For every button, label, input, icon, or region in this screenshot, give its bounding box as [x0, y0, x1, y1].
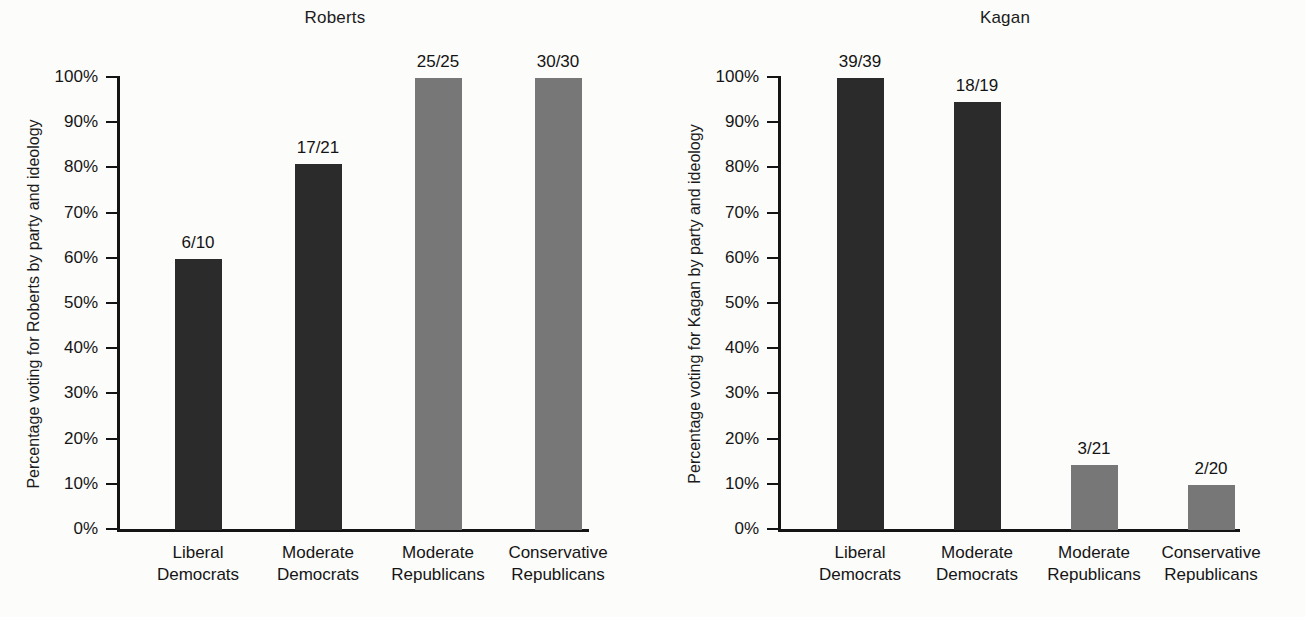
y-tick-label-roberts-10: 0% [73, 519, 98, 539]
plot-area-kagan: 100%90%80%70%60%50%40%30%20%10%0% 39/39L… [778, 78, 1240, 530]
y-tick-label-roberts-5: 50% [64, 293, 98, 313]
y-tick-roberts-8: 20% [106, 438, 117, 440]
y-tick-kagan-3: 70% [767, 212, 778, 214]
x-category-label-roberts-2: ModerateRepublicans [391, 542, 485, 587]
y-tick-kagan-9: 10% [767, 483, 778, 485]
y-tick-kagan-6: 40% [767, 347, 778, 349]
x-category-line1-kagan-1: Moderate [941, 543, 1013, 562]
bar-value-label-roberts-1: 17/21 [297, 138, 340, 158]
bar-value-label-kagan-0: 39/39 [839, 52, 882, 72]
y-tick-roberts-4: 60% [106, 257, 117, 259]
x-category-label-kagan-2: ModerateRepublicans [1047, 542, 1141, 587]
y-tick-label-kagan-8: 20% [725, 429, 759, 449]
x-category-label-roberts-3: ConservativeRepublicans [508, 542, 607, 587]
y-tick-kagan-1: 90% [767, 121, 778, 123]
bar-roberts-3[interactable]: 30/30ConservativeRepublicans [535, 78, 582, 530]
bar-kagan-3[interactable]: 2/20ConservativeRepublicans [1188, 485, 1235, 530]
figure-root: Roberts Percentage voting for Roberts by… [0, 0, 1305, 617]
x-category-line2-roberts-1: Democrats [277, 564, 359, 586]
y-tick-roberts-7: 30% [106, 392, 117, 394]
y-tick-label-roberts-7: 30% [64, 383, 98, 403]
y-tick-kagan-7: 30% [767, 392, 778, 394]
y-axis-title-kagan: Percentage voting for Kagan by party and… [683, 78, 707, 530]
chart-title-kagan: Kagan [653, 8, 1305, 28]
y-tick-kagan-2: 80% [767, 166, 778, 168]
chart-panel-roberts: Roberts Percentage voting for Roberts by… [0, 0, 652, 617]
x-category-line1-kagan-0: Liberal [834, 543, 885, 562]
x-category-label-kagan-3: ConservativeRepublicans [1161, 542, 1260, 587]
y-axis-title-roberts: Percentage voting for Roberts by party a… [22, 78, 46, 530]
x-category-line2-roberts-0: Democrats [157, 564, 239, 586]
plot-area-roberts: 100%90%80%70%60%50%40%30%20%10%0% 6/10Li… [117, 78, 589, 530]
y-tick-label-kagan-5: 50% [725, 293, 759, 313]
bar-roberts-0[interactable]: 6/10LiberalDemocrats [175, 259, 222, 530]
x-category-line2-roberts-3: Republicans [508, 564, 607, 586]
x-category-line2-roberts-2: Republicans [391, 564, 485, 586]
bar-value-label-kagan-3: 2/20 [1194, 459, 1227, 479]
bar-value-label-roberts-3: 30/30 [537, 52, 580, 72]
x-category-label-roberts-1: ModerateDemocrats [277, 542, 359, 587]
y-tick-kagan-10: 0% [767, 528, 778, 530]
y-tick-kagan-8: 20% [767, 438, 778, 440]
y-tick-roberts-9: 10% [106, 483, 117, 485]
chart-panel-kagan: Kagan Percentage voting for Kagan by par… [653, 0, 1305, 617]
x-category-label-kagan-0: LiberalDemocrats [819, 542, 901, 587]
bar-value-label-roberts-0: 6/10 [181, 233, 214, 253]
bar-roberts-2[interactable]: 25/25ModerateRepublicans [415, 78, 462, 530]
x-category-line2-kagan-2: Republicans [1047, 564, 1141, 586]
y-tick-kagan-0: 100% [767, 76, 778, 78]
y-tick-label-kagan-2: 80% [725, 157, 759, 177]
y-tick-label-roberts-3: 70% [64, 203, 98, 223]
y-tick-label-kagan-4: 60% [725, 248, 759, 268]
y-tick-label-roberts-8: 20% [64, 429, 98, 449]
bar-kagan-2[interactable]: 3/21ModerateRepublicans [1071, 465, 1118, 530]
bar-value-label-kagan-1: 18/19 [956, 76, 999, 96]
x-category-line1-kagan-3: Conservative [1161, 543, 1260, 562]
y-tick-label-roberts-0: 100% [55, 67, 98, 87]
y-tick-roberts-1: 90% [106, 121, 117, 123]
y-tick-roberts-0: 100% [106, 76, 117, 78]
y-tick-label-kagan-7: 30% [725, 383, 759, 403]
y-tick-kagan-4: 60% [767, 257, 778, 259]
y-tick-label-kagan-6: 40% [725, 338, 759, 358]
x-category-label-roberts-0: LiberalDemocrats [157, 542, 239, 587]
x-category-line1-kagan-2: Moderate [1058, 543, 1130, 562]
bar-kagan-1[interactable]: 18/19ModerateDemocrats [954, 102, 1001, 530]
y-tick-label-roberts-2: 80% [64, 157, 98, 177]
y-tick-roberts-3: 70% [106, 212, 117, 214]
y-tick-label-kagan-10: 0% [734, 519, 759, 539]
y-axis-title-kagan-text: Percentage voting for Kagan by party and… [686, 124, 704, 483]
bar-value-label-roberts-2: 25/25 [417, 52, 460, 72]
x-category-line1-roberts-0: Liberal [172, 543, 223, 562]
y-tick-label-kagan-1: 90% [725, 112, 759, 132]
bar-roberts-1[interactable]: 17/21ModerateDemocrats [295, 164, 342, 530]
x-category-line1-roberts-1: Moderate [282, 543, 354, 562]
y-tick-kagan-5: 50% [767, 302, 778, 304]
y-axis-line-roberts [117, 76, 120, 532]
y-tick-label-roberts-1: 90% [64, 112, 98, 132]
y-tick-label-kagan-0: 100% [716, 67, 759, 87]
y-tick-roberts-5: 50% [106, 302, 117, 304]
y-tick-roberts-6: 40% [106, 347, 117, 349]
x-category-line2-kagan-0: Democrats [819, 564, 901, 586]
y-axis-title-roberts-text: Percentage voting for Roberts by party a… [25, 119, 43, 488]
chart-title-roberts: Roberts [0, 8, 652, 28]
bar-kagan-0[interactable]: 39/39LiberalDemocrats [837, 78, 884, 530]
x-category-line1-roberts-2: Moderate [402, 543, 474, 562]
x-category-label-kagan-1: ModerateDemocrats [936, 542, 1018, 587]
x-category-line2-kagan-3: Republicans [1161, 564, 1260, 586]
y-tick-roberts-10: 0% [106, 528, 117, 530]
y-tick-label-roberts-4: 60% [64, 248, 98, 268]
y-axis-line-kagan [778, 76, 781, 532]
bar-value-label-kagan-2: 3/21 [1077, 439, 1110, 459]
y-tick-label-kagan-3: 70% [725, 203, 759, 223]
x-category-line1-roberts-3: Conservative [508, 543, 607, 562]
y-tick-label-roberts-6: 40% [64, 338, 98, 358]
y-tick-roberts-2: 80% [106, 166, 117, 168]
x-category-line2-kagan-1: Democrats [936, 564, 1018, 586]
y-tick-label-roberts-9: 10% [64, 474, 98, 494]
y-tick-label-kagan-9: 10% [725, 474, 759, 494]
